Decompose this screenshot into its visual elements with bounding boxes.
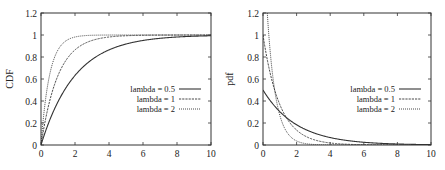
plot-frame (41, 13, 211, 145)
y-tick-label: 0 (32, 141, 37, 151)
x-tick-label: 6 (141, 149, 146, 159)
y-tick-label: 0.6 (25, 75, 37, 85)
x-tick-label: 4 (328, 149, 333, 159)
y-tick-label: 0.6 (247, 75, 259, 85)
y-tick-label: 0.8 (25, 53, 37, 63)
y-tick-label: 1.2 (247, 9, 259, 19)
y-tick-label: 0.2 (25, 119, 37, 129)
legend-label: lambda = 0.5 (350, 84, 395, 94)
x-tick-label: 4 (107, 149, 112, 159)
y-axis-label: CDF (4, 69, 15, 89)
series-line-0 (263, 90, 431, 145)
y-axis-label: pdf (224, 72, 235, 86)
y-tick-label: 0 (254, 141, 259, 151)
legend-label: lambda = 1 (357, 94, 395, 104)
series-line-2 (41, 35, 211, 145)
x-tick-label: 8 (175, 149, 180, 159)
pdf-chart: 024681000.20.40.60.811.2pdflambda = 0.5l… (224, 0, 436, 159)
y-tick-label: 0.4 (25, 97, 37, 107)
x-tick-label: 0 (261, 149, 266, 159)
x-tick-label: 6 (361, 149, 366, 159)
y-tick-label: 0.2 (247, 119, 259, 129)
x-tick-label: 2 (73, 149, 78, 159)
legend-label: lambda = 1 (137, 94, 175, 104)
y-tick-label: 1.2 (25, 9, 37, 19)
y-tick-label: 1 (254, 31, 259, 41)
series-line-2 (263, 0, 431, 145)
x-tick-label: 8 (395, 149, 400, 159)
x-tick-label: 2 (294, 149, 299, 159)
series-line-1 (263, 35, 431, 145)
legend-label: lambda = 2 (357, 104, 395, 114)
series-line-0 (41, 36, 211, 145)
legend-label: lambda = 2 (137, 104, 175, 114)
x-tick-label: 10 (426, 149, 436, 159)
legend-label: lambda = 0.5 (130, 84, 175, 94)
y-tick-label: 0.4 (247, 97, 259, 107)
x-tick-label: 0 (39, 149, 44, 159)
series-line-1 (41, 35, 211, 145)
x-tick-label: 10 (206, 149, 216, 159)
charts-figure: 024681000.20.40.60.811.2CDFlambda = 0.5l… (0, 0, 445, 170)
cdf-chart: 024681000.20.40.60.811.2CDFlambda = 0.5l… (4, 9, 216, 160)
y-tick-label: 1 (32, 31, 37, 41)
plot-frame (263, 13, 431, 145)
y-tick-label: 0.8 (247, 53, 259, 63)
